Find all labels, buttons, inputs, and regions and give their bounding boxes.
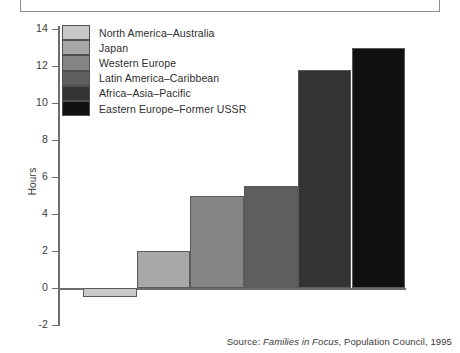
- legend-swatch-icon: [62, 86, 90, 101]
- y-tick-label: 6: [8, 171, 48, 182]
- source-publication-title: Families in Focus: [263, 336, 339, 347]
- legend-swatch-icon: [62, 71, 90, 86]
- y-tick-mark: [52, 214, 59, 216]
- y-tick-label: 10: [8, 97, 48, 108]
- bar-japan: [137, 251, 191, 288]
- y-tick-mark: [52, 251, 59, 253]
- legend-item-label: Africa–Asia–Pacific: [99, 87, 191, 99]
- y-tick-mark: [52, 288, 59, 290]
- source-note: Source: Families in Focus, Population Co…: [227, 336, 452, 347]
- legend-item: Japan: [62, 40, 246, 55]
- y-tick-mark: [52, 66, 59, 68]
- legend-item: Eastern Europe–Former USSR: [62, 101, 246, 116]
- y-tick-label: 12: [8, 60, 48, 71]
- source-prefix: Source:: [227, 336, 263, 347]
- legend-swatch-icon: [62, 55, 90, 70]
- legend-swatch-icon: [62, 40, 90, 55]
- legend-item-label: Latin America–Caribbean: [99, 72, 219, 84]
- legend-swatch-icon: [62, 101, 90, 116]
- legend-swatch-icon: [62, 25, 90, 40]
- chart-legend: North America–AustraliaJapanWestern Euro…: [62, 25, 246, 116]
- legend-item: North America–Australia: [62, 25, 246, 40]
- bar-chart: Hours 14121086420-2 North America–Austra…: [0, 0, 460, 353]
- y-tick-label: 14: [8, 23, 48, 34]
- bar-latin-america-caribbean: [244, 186, 298, 288]
- y-tick-label: 8: [8, 134, 48, 145]
- y-tick-mark: [52, 29, 59, 31]
- legend-item: Latin America–Caribbean: [62, 71, 246, 86]
- legend-item-label: Eastern Europe–Former USSR: [99, 103, 246, 115]
- bar-africa-asia-pacific: [298, 70, 352, 288]
- legend-item: Africa–Asia–Pacific: [62, 86, 246, 101]
- legend-item-label: Western Europe: [99, 57, 176, 69]
- bar-eastern-europe-former-ussr: [352, 48, 406, 289]
- y-tick-label: 2: [8, 245, 48, 256]
- y-tick-label: 0: [8, 282, 48, 293]
- legend-item-label: North America–Australia: [99, 27, 215, 39]
- y-tick-mark: [52, 103, 59, 105]
- y-tick-mark: [52, 177, 59, 179]
- source-suffix: , Population Council, 1995: [338, 336, 452, 347]
- legend-item-label: Japan: [99, 42, 128, 54]
- bar-north-america-australia: [83, 288, 137, 297]
- y-tick-label: 4: [8, 208, 48, 219]
- legend-item: Western Europe: [62, 55, 246, 70]
- y-tick-mark: [52, 325, 59, 327]
- y-tick-mark: [52, 140, 59, 142]
- y-tick-label: -2: [8, 319, 48, 330]
- bar-western-europe: [190, 196, 244, 289]
